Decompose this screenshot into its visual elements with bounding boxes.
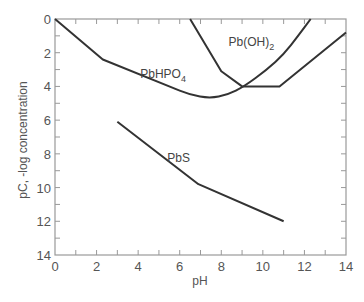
x-tick-label: 4 — [135, 259, 142, 274]
y-tick-label: 2 — [44, 46, 51, 61]
x-tick-label: 0 — [51, 259, 58, 274]
x-tick-label: 2 — [93, 259, 100, 274]
x-tick-label: 8 — [218, 259, 225, 274]
x-axis-label: pH — [192, 274, 207, 288]
solubility-curves — [55, 19, 346, 221]
plot-border — [55, 19, 346, 255]
curve-pbs — [117, 122, 283, 221]
axis-ticks — [55, 19, 346, 255]
x-tick-label: 10 — [256, 259, 270, 274]
x-tick-label: 6 — [176, 259, 183, 274]
y-tick-label: 6 — [44, 113, 51, 128]
x-tick-label: 12 — [297, 259, 311, 274]
y-tick-label: 8 — [44, 147, 51, 162]
series-labels: PbHPO4Pb(OH)2PbS — [140, 35, 274, 165]
label-pbs: PbS — [167, 151, 190, 165]
plot-frame — [55, 19, 346, 255]
y-tick-labels: 02468101214 — [37, 12, 51, 263]
y-tick-label: 0 — [44, 12, 51, 27]
label-pbhpo4: PbHPO4 — [140, 67, 186, 84]
lead-solubility-chart: 02468101214 02468101214 PbHPO4Pb(OH)2PbS… — [0, 0, 364, 302]
curve-pb-oh-2 — [190, 19, 346, 86]
x-tick-labels: 02468101214 — [51, 259, 353, 274]
y-tick-label: 12 — [37, 214, 51, 229]
y-axis-label: pC, -log concentration — [16, 81, 30, 198]
label-pb-oh-2: Pb(OH)2 — [229, 35, 275, 52]
y-tick-label: 14 — [37, 248, 51, 263]
x-tick-label: 14 — [339, 259, 353, 274]
y-tick-label: 10 — [37, 181, 51, 196]
y-tick-label: 4 — [44, 79, 51, 94]
